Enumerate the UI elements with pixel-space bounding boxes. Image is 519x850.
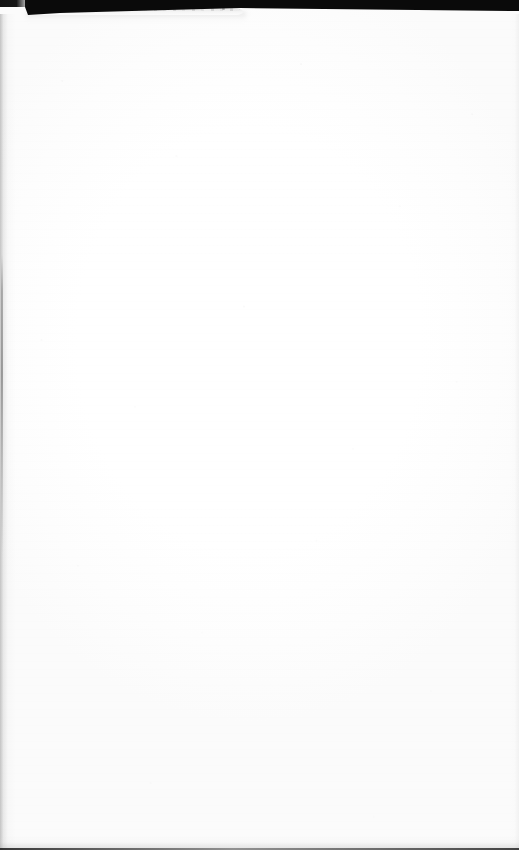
bottom-edge-glow: [0, 836, 519, 848]
right-margin-shadow: [509, 14, 519, 850]
left-edge-dark-line: [1, 255, 3, 555]
scanner-lid-band-left-nub: [0, 0, 30, 7]
scanned-document-page: [0, 0, 519, 850]
page-content-area: [46, 62, 476, 792]
